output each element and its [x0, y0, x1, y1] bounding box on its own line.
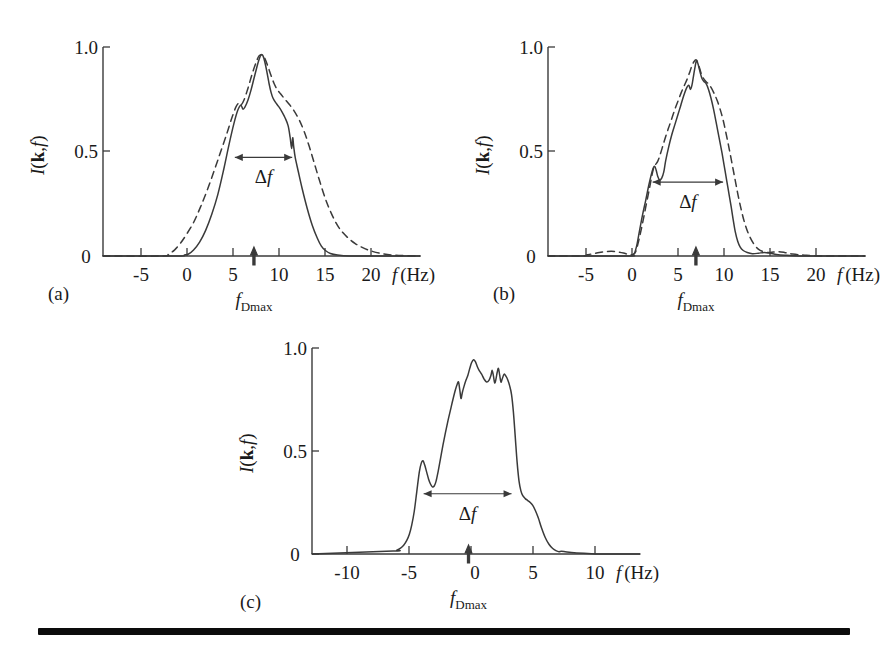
x-title-f: f [616, 562, 624, 583]
y-ticklabel-1: 1.0 [74, 37, 98, 58]
curve-measured-solid [312, 360, 640, 554]
deltaf-label: Δf [255, 166, 275, 187]
panel-c-x-ticklabels: -10 -5 0 5 10 [334, 562, 604, 583]
x-ticklabel--5: -5 [133, 264, 149, 285]
x-ticklabel-10: 10 [586, 562, 605, 583]
panel-b-x-axis-title: f(Hz) [837, 264, 880, 286]
deltaf-delta: Δ [459, 503, 471, 524]
panel-b-x-ticklabels: -5 0 5 10 15 20 [578, 264, 825, 285]
y-title-k: k [472, 151, 493, 162]
deltaf-arrowhead-right [715, 178, 723, 185]
deltaf-delta: Δ [679, 191, 691, 212]
bottom-divider-rule [38, 628, 850, 635]
curve-model-dashed [548, 60, 865, 256]
y-ticklabel-0: 0 [290, 544, 300, 565]
panel-b-y-axis-title: I(k,f) [472, 135, 494, 176]
fdmax-label: fDmax [450, 587, 488, 612]
y-ticklabel-05: 0.5 [74, 141, 98, 162]
y-ticklabel-0: 0 [526, 246, 536, 267]
panel-a: 1.0 0.5 0 I(k,f) -5 0 5 1 [0, 0, 445, 320]
fdmax-sub: Dmax [455, 597, 487, 612]
panel-a-x-ticklabels: -5 0 5 10 15 20 [133, 264, 380, 285]
x-ticklabel-5: 5 [528, 562, 538, 583]
panel-b: 1.0 0.5 0 I(k,f) -5 0 5 1 [445, 0, 890, 320]
x-ticklabel-15: 15 [761, 264, 780, 285]
x-ticklabel--5: -5 [578, 264, 594, 285]
panel-b-axes [548, 47, 865, 256]
panel-b-letter: (b) [493, 283, 515, 305]
panel-a-curves [103, 55, 420, 257]
fdmax-label: fDmax [235, 289, 273, 314]
panel-a-plot: 1.0 0.5 0 I(k,f) -5 0 5 1 [0, 0, 445, 320]
y-ticklabel-05: 0.5 [283, 441, 307, 462]
figure-container: 1.0 0.5 0 I(k,f) -5 0 5 1 [0, 0, 890, 651]
deltaf-delta: Δ [255, 166, 267, 187]
x-ticklabel-10: 10 [270, 264, 289, 285]
y-ticklabel-0: 0 [81, 246, 91, 267]
x-title-hz: (Hz) [845, 264, 880, 286]
y-title-paren-close: ) [236, 433, 258, 439]
y-title-k: k [27, 151, 48, 162]
panel-b-fdmax-marker: fDmax [677, 247, 715, 314]
x-ticklabel-0: 0 [627, 264, 637, 285]
y-ticklabel-05: 0.5 [519, 141, 543, 162]
y-ticklabel-1: 1.0 [519, 37, 543, 58]
x-ticklabel-5: 5 [228, 264, 238, 285]
panel-c-deltaf-annotation: Δf [424, 490, 512, 524]
panel-c-y-ticklabels: 1.0 0.5 0 [283, 338, 307, 565]
y-ticklabel-1: 1.0 [283, 338, 307, 359]
panel-a-x-axis-title: f(Hz) [392, 264, 435, 286]
deltaf-arrowhead-right [504, 490, 512, 497]
fdmax-label: fDmax [677, 289, 715, 314]
x-ticklabel-5: 5 [673, 264, 683, 285]
x-ticklabel-20: 20 [362, 264, 381, 285]
x-ticklabel-0: 0 [182, 264, 192, 285]
panel-a-y-axis-title: I(k,f) [27, 135, 49, 176]
x-ticklabel-20: 20 [807, 264, 826, 285]
x-ticklabel--5: -5 [401, 562, 417, 583]
deltaf-label: Δf [679, 191, 699, 212]
y-title-paren-close: ) [472, 135, 494, 141]
panel-a-letter: (a) [48, 283, 69, 305]
deltaf-arrowhead-right [284, 154, 292, 161]
panel-b-plot: 1.0 0.5 0 I(k,f) -5 0 5 1 [445, 0, 890, 320]
x-ticklabel-15: 15 [316, 264, 335, 285]
y-title-paren-close: ) [27, 135, 49, 141]
panel-b-deltaf-annotation: Δf [653, 178, 723, 212]
deltaf-f: f [471, 503, 479, 524]
y-title-k: k [236, 449, 257, 460]
panel-c-letter: (c) [240, 591, 261, 613]
panel-b-y-ticklabels: 1.0 0.5 0 [519, 37, 543, 267]
svg-text:I(k,f): I(k,f) [27, 135, 49, 176]
panel-c-y-axis-title: I(k,f) [236, 433, 258, 474]
panel-c: 1.0 0.5 0 I(k,f) -10 -5 0 5 [180, 318, 680, 608]
panel-a-y-ticklabels: 1.0 0.5 0 [74, 37, 98, 267]
deltaf-arrowhead-left [424, 490, 432, 497]
deltaf-f: f [267, 166, 275, 187]
x-ticklabel--10: -10 [334, 562, 359, 583]
fdmax-sub: Dmax [241, 299, 273, 314]
x-title-hz: (Hz) [624, 562, 659, 584]
deltaf-label: Δf [459, 503, 479, 524]
panel-c-plot: 1.0 0.5 0 I(k,f) -10 -5 0 5 [180, 318, 680, 608]
panel-a-deltaf-annotation: Δf [235, 154, 292, 188]
x-title-hz: (Hz) [400, 264, 435, 286]
curve-model-dashed [103, 55, 420, 257]
deltaf-f: f [691, 191, 699, 212]
svg-text:I(k,f): I(k,f) [472, 135, 494, 176]
panel-a-fdmax-marker: fDmax [235, 247, 273, 314]
panel-b-curves [548, 60, 865, 256]
panel-a-axes [103, 47, 420, 256]
panel-c-curves [312, 360, 640, 554]
x-ticklabel-0: 0 [470, 562, 480, 583]
x-ticklabel-10: 10 [715, 264, 734, 285]
x-title-f: f [837, 264, 845, 285]
deltaf-arrowhead-left [235, 154, 243, 161]
curve-measured-solid [103, 55, 420, 257]
curve-measured-solid [548, 61, 865, 256]
panel-c-fdmax-marker: fDmax [450, 545, 488, 612]
x-title-f: f [392, 264, 400, 285]
fdmax-sub: Dmax [683, 299, 715, 314]
panel-c-x-axis-title: f(Hz) [616, 562, 659, 584]
svg-text:I(k,f): I(k,f) [236, 433, 258, 474]
